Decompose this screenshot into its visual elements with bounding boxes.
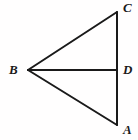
vertex-label-a: A <box>123 123 132 136</box>
geometry-canvas <box>0 0 138 140</box>
segment-bc <box>28 12 117 70</box>
vertex-label-c: C <box>123 1 132 14</box>
geometry-figure: B C D A <box>0 0 138 140</box>
segment-ab <box>28 70 117 125</box>
vertex-label-b: B <box>9 63 18 76</box>
vertex-label-d: D <box>123 63 132 76</box>
